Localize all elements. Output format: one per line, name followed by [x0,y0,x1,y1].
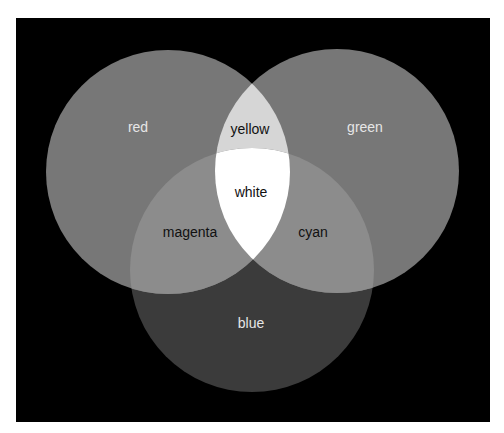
label-red: red [128,119,148,135]
label-magenta: magenta [163,224,218,240]
label-white: white [234,184,268,200]
venn-diagram: red green blue yellow magenta cyan white [0,0,504,433]
label-cyan: cyan [298,224,328,240]
label-yellow: yellow [231,121,271,137]
label-green: green [347,119,383,135]
label-blue: blue [238,315,265,331]
